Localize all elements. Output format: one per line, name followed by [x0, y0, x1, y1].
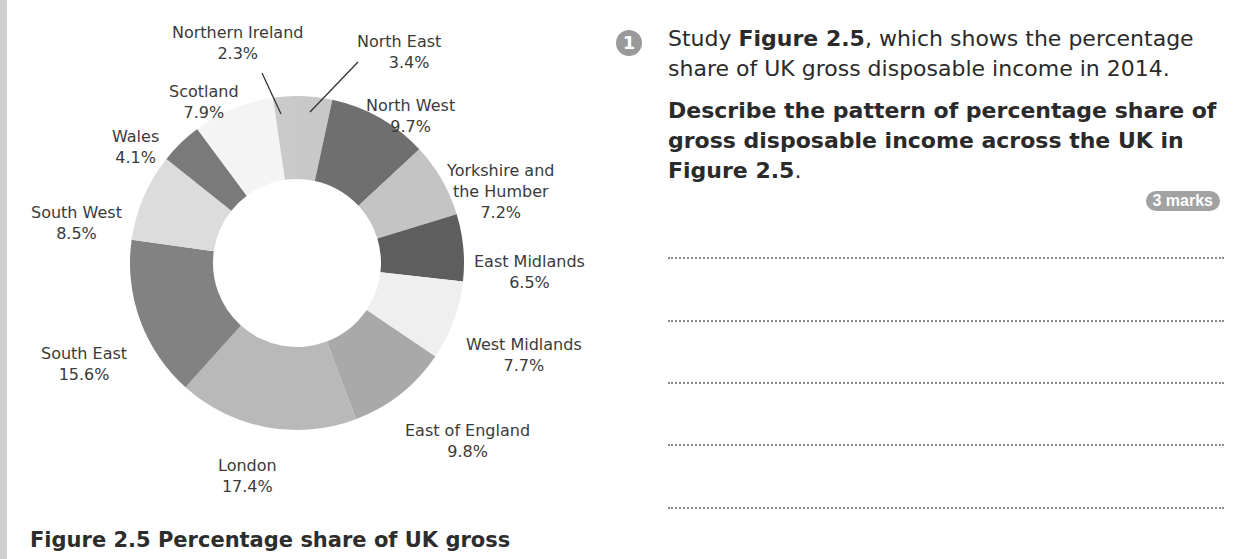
answer-line[interactable]	[668, 257, 1224, 259]
label-name: Northern Ireland	[172, 22, 303, 43]
label-name: Wales	[112, 126, 159, 147]
figure-caption: Figure 2.5 Percentage share of UK gross	[30, 528, 510, 552]
label-value: 17.4%	[218, 476, 277, 497]
label-london: London 17.4%	[218, 455, 277, 497]
answer-line[interactable]	[668, 444, 1224, 446]
label-north-east: North East 3.4%	[357, 31, 441, 73]
label-value: 7.9%	[169, 102, 239, 123]
label-name: North West	[366, 95, 455, 116]
label-west-midlands: West Midlands 7.7%	[466, 334, 582, 376]
label-wales: Wales 4.1%	[112, 126, 159, 168]
label-name: East Midlands	[474, 251, 585, 272]
text: .	[794, 158, 801, 183]
answer-line[interactable]	[668, 382, 1224, 384]
label-value: 9.7%	[366, 116, 455, 137]
label-name: East of England	[405, 420, 530, 441]
label-value: 3.4%	[357, 52, 441, 73]
label-name-2: the Humber	[447, 181, 554, 202]
label-value: 7.2%	[447, 202, 554, 223]
question-number-icon: 1	[616, 30, 642, 56]
label-scotland: Scotland 7.9%	[169, 81, 239, 123]
label-name: West Midlands	[466, 334, 582, 355]
figure-ref: Figure 2.5	[739, 26, 865, 51]
prompt-text: Describe the pattern of percentage share…	[668, 98, 1216, 183]
label-name: Scotland	[169, 81, 239, 102]
text: Study	[668, 26, 739, 51]
label-value: 15.6%	[41, 364, 127, 385]
question-intro: Study Figure 2.5, which shows the percen…	[668, 24, 1236, 84]
label-value: 8.5%	[31, 223, 122, 244]
label-south-west: South West 8.5%	[31, 202, 122, 244]
label-value: 4.1%	[112, 147, 159, 168]
label-northern-ireland: Northern Ireland 2.3%	[172, 22, 303, 64]
label-value: 6.5%	[474, 272, 585, 293]
label-yorkshire-humber: Yorkshire and the Humber 7.2%	[447, 160, 554, 223]
label-value: 7.7%	[466, 355, 582, 376]
answer-line[interactable]	[668, 507, 1224, 509]
label-name: South East	[41, 343, 127, 364]
label-name: South West	[31, 202, 122, 223]
label-south-east: South East 15.6%	[41, 343, 127, 385]
question-text: Study Figure 2.5, which shows the percen…	[668, 24, 1236, 198]
text: Describe the pattern of percentage share…	[668, 98, 1216, 153]
label-value: 2.3%	[172, 43, 303, 64]
label-name: Yorkshire and	[447, 160, 554, 181]
label-name: London	[218, 455, 277, 476]
marks-badge: 3 marks	[1146, 191, 1221, 211]
label-name: North East	[357, 31, 441, 52]
answer-line[interactable]	[668, 320, 1224, 322]
question-prompt: Describe the pattern of percentage share…	[668, 96, 1236, 186]
label-east-midlands: East Midlands 6.5%	[474, 251, 585, 293]
figure-ref: Figure 2.5	[668, 158, 794, 183]
label-value: 9.8%	[405, 441, 530, 462]
label-north-west: North West 9.7%	[366, 95, 455, 137]
label-east-of-england: East of England 9.8%	[405, 420, 530, 462]
